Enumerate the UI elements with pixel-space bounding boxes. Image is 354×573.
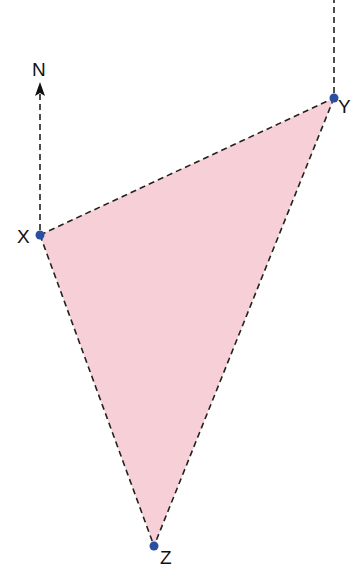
point-z: [150, 542, 159, 551]
label-z: Z: [160, 547, 172, 568]
label-y: Y: [338, 96, 351, 117]
triangle-xyz-fill: [40, 98, 334, 546]
north-arrow-icon: [35, 82, 45, 96]
point-x: [36, 231, 45, 240]
diagram-canvas: N X Y Z: [0, 0, 354, 573]
label-x: X: [17, 226, 30, 247]
north-label: N: [32, 59, 46, 80]
